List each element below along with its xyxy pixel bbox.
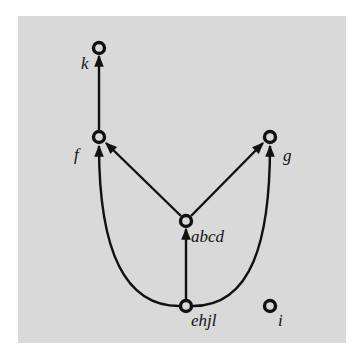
labels: k f g abcd ehjl i bbox=[74, 54, 292, 330]
node-g[interactable] bbox=[265, 132, 276, 143]
edge-abcd-to-g bbox=[191, 143, 263, 216]
node-abcd[interactable] bbox=[181, 216, 192, 227]
label-i: i bbox=[278, 311, 283, 330]
label-g: g bbox=[283, 146, 292, 165]
directed-graph: k f g abcd ehjl i bbox=[0, 0, 362, 357]
label-k: k bbox=[81, 54, 89, 73]
edge-ehjl-to-f bbox=[99, 146, 179, 306]
label-f: f bbox=[74, 145, 81, 164]
node-i[interactable] bbox=[265, 301, 276, 312]
node-f[interactable] bbox=[94, 132, 105, 143]
label-ehjl: ehjl bbox=[191, 311, 217, 330]
edges bbox=[99, 56, 270, 306]
node-k[interactable] bbox=[94, 43, 105, 54]
label-abcd: abcd bbox=[191, 227, 225, 246]
edge-ehjl-to-g bbox=[193, 146, 270, 306]
node-ehjl[interactable] bbox=[181, 301, 192, 312]
edge-abcd-to-f bbox=[106, 143, 181, 216]
